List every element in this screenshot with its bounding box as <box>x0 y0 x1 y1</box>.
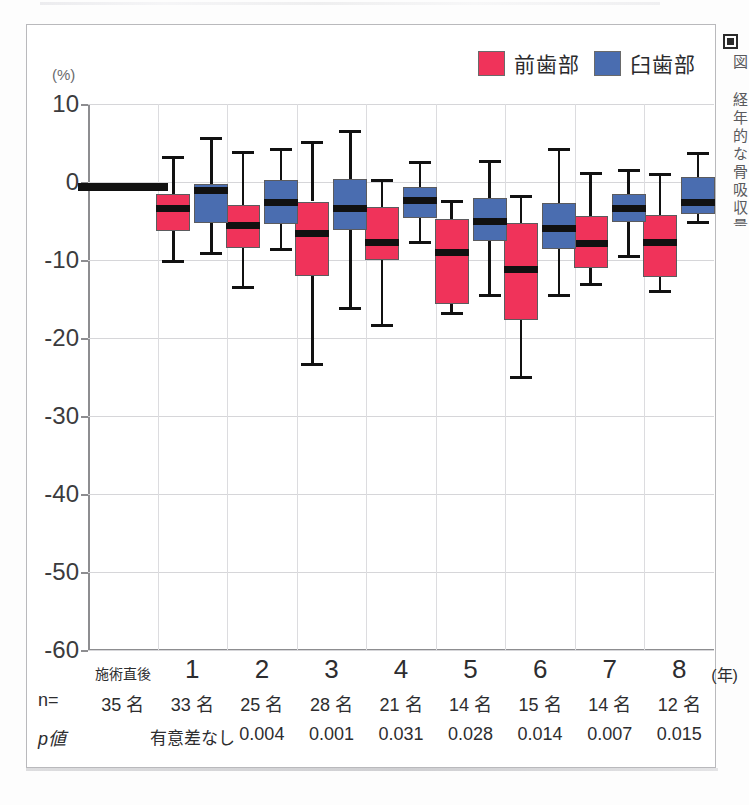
side-caption: 図 経年的な骨吸収量の推移を示す <box>722 28 749 228</box>
gridline-horizontal <box>88 182 714 183</box>
n-row-label: n= <box>38 690 59 711</box>
whisker-cap-lower <box>580 283 602 286</box>
whisker-upper <box>349 131 352 179</box>
whisker-cap-lower <box>200 252 222 255</box>
p-value-cell: 0.001 <box>309 724 354 745</box>
y-axis-tick-mark <box>81 104 88 106</box>
whisker-cap-upper <box>301 141 323 144</box>
x-axis-category-label: 1 <box>185 654 199 685</box>
x-axis-category-label: 2 <box>255 654 269 685</box>
whisker-lower <box>242 248 245 288</box>
gridline-horizontal <box>88 650 714 651</box>
y-axis-tick-label: -30 <box>44 402 79 430</box>
x-axis-unit-label: (年) <box>711 662 738 686</box>
whisker-cap-lower <box>232 286 254 289</box>
legend-entry-2: 臼歯部 <box>594 48 696 78</box>
box-median-line <box>504 266 538 273</box>
n-count-cell: 25 名 <box>240 690 283 716</box>
box-median-line <box>264 199 298 206</box>
whisker-upper <box>659 175 662 215</box>
plot-background <box>88 104 714 650</box>
whisker-cap-upper <box>548 148 570 151</box>
whisker-cap-upper <box>162 156 184 159</box>
whisker-lower <box>349 230 352 308</box>
y-axis-tick-label: 10 <box>52 90 79 118</box>
n-count-cell: 14 名 <box>449 690 492 716</box>
gridline-horizontal <box>88 104 714 105</box>
pink-swatch <box>478 51 505 76</box>
p-value-cell: 0.014 <box>518 724 563 745</box>
y-axis-tick-label: -50 <box>44 558 79 586</box>
whisker-lower <box>589 268 592 285</box>
gridline-vertical <box>644 104 645 650</box>
whisker-cap-lower <box>548 294 570 297</box>
box-median-line <box>643 239 677 246</box>
whisker-cap-lower <box>270 248 292 251</box>
whisker-cap-upper <box>618 169 640 172</box>
p-value-cell: 0.015 <box>657 724 702 745</box>
whisker-upper <box>381 180 384 207</box>
legend-label: 前歯部 <box>514 48 580 78</box>
whisker-cap-lower <box>371 324 393 327</box>
n-count-cell: 35 名 <box>101 690 144 716</box>
whisker-cap-lower <box>409 241 431 244</box>
n-count-cell: 12 名 <box>658 690 701 716</box>
whisker-upper <box>558 149 561 203</box>
whisker-lower <box>627 222 630 257</box>
whisker-cap-lower <box>162 260 184 263</box>
n-count-cell: 33 名 <box>171 690 214 716</box>
gridline-vertical <box>575 104 576 650</box>
box-iqr <box>643 215 677 277</box>
x-axis-category-label: 5 <box>463 654 477 685</box>
y-axis-tick-mark <box>81 338 88 340</box>
whisker-upper <box>210 138 213 183</box>
p-value-cell: 有意差なし <box>150 724 235 749</box>
chart-legend: 前歯部臼歯部 <box>478 48 696 78</box>
y-axis-tick-mark <box>81 650 88 652</box>
whisker-cap-upper <box>409 161 431 164</box>
box-median-line <box>333 205 367 212</box>
box-flat-median-bar <box>78 183 168 191</box>
whisker-cap-upper <box>580 172 602 175</box>
y-axis-tick-mark <box>81 494 88 496</box>
whisker-cap-upper <box>510 195 532 198</box>
whisker-upper <box>242 152 245 205</box>
box-median-line <box>194 187 228 194</box>
whisker-upper <box>450 202 453 219</box>
whisker-lower <box>311 276 314 364</box>
p-value-cell: 0.007 <box>587 724 632 745</box>
x-axis-category-label: 施術直後 <box>95 663 151 683</box>
box-median-line <box>473 218 507 225</box>
y-axis-tick-label: 0 <box>66 168 79 196</box>
y-axis-tick-mark <box>81 572 88 574</box>
p-value-cell: 0.031 <box>378 724 423 745</box>
y-axis-unit-label: (%) <box>52 66 75 83</box>
whisker-lower <box>210 223 213 254</box>
p-row-label: p値 <box>38 724 66 750</box>
x-axis-category-label: 6 <box>533 654 547 685</box>
whisker-cap-lower <box>618 255 640 258</box>
y-axis-tick-label: -40 <box>44 480 79 508</box>
caption-marker-icon <box>723 34 738 49</box>
scan-artifact-strip <box>40 2 660 5</box>
x-axis-category-label: 3 <box>324 654 338 685</box>
whisker-upper <box>172 158 175 195</box>
x-axis-category-label: 7 <box>602 654 616 685</box>
x-axis-category-label: 4 <box>394 654 408 685</box>
whisker-cap-upper <box>479 160 501 163</box>
plot-area: 100-10-20-30-40-50-60 <box>88 104 714 650</box>
whisker-lower <box>381 260 384 326</box>
box-median-line <box>574 240 608 247</box>
y-axis-tick-mark <box>81 260 88 262</box>
n-count-cell: 14 名 <box>588 690 631 716</box>
n-count-cell: 21 名 <box>379 690 422 716</box>
box-iqr <box>365 207 399 260</box>
whisker-upper <box>311 142 314 201</box>
whisker-lower <box>520 320 523 377</box>
box-iqr <box>681 177 715 214</box>
box-iqr <box>295 202 329 277</box>
gridline-horizontal <box>88 572 714 573</box>
box-iqr <box>156 194 190 231</box>
box-median-line <box>435 249 469 256</box>
box-median-line <box>365 239 399 246</box>
